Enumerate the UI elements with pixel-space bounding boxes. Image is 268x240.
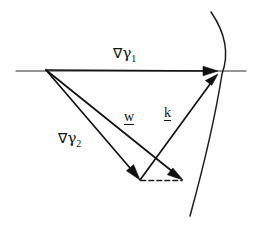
nabla-icon: ∇ (58, 130, 67, 146)
k-vector-label: k (164, 104, 171, 120)
gradient2-vector-shaft (46, 70, 136, 175)
gradient1-subscript: 1 (131, 53, 136, 64)
nabla-icon: ∇ (113, 45, 122, 61)
k-vector-shaft (140, 80, 213, 180)
gradient2-label: ∇γ2 (58, 131, 81, 149)
gradient1-label: ∇γ1 (113, 46, 136, 64)
gradient1-arrowhead (203, 66, 218, 76)
gradient1-vector-shaft (46, 70, 212, 71)
figure-root: ∇γ1 ∇γ2 w k (0, 0, 268, 240)
k-vector-symbol: k (164, 105, 171, 121)
gamma-symbol: γ (122, 44, 131, 62)
k-arrowhead (205, 74, 218, 85)
gamma-symbol: γ (67, 129, 76, 147)
w-vector-shaft (46, 70, 178, 176)
gradient2-subscript: 2 (76, 138, 81, 149)
w-vector-label: w (124, 108, 134, 124)
circular-arc (190, 12, 226, 216)
w-vector-symbol: w (124, 109, 134, 125)
